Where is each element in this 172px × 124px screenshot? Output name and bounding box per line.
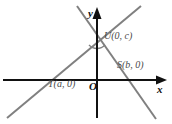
- arrow-up-icon: [93, 7, 102, 19]
- point-label-u: U(0, c): [104, 31, 132, 41]
- figure-canvas: [0, 0, 172, 124]
- coordinate-geometry-figure: U(0, c) S(b, 0) T(a, 0) O x y: [0, 0, 172, 124]
- point-label-t: T(a, 0): [48, 79, 75, 89]
- point-label-s: S(b, 0): [117, 60, 144, 70]
- origin-label: O: [89, 81, 97, 92]
- y-axis-label: y: [88, 8, 93, 19]
- x-axis-label: x: [157, 84, 163, 95]
